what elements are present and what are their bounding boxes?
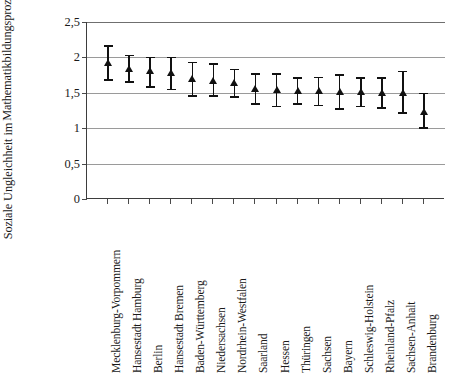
x-axis-category-label: Sachsen bbox=[322, 336, 334, 373]
error-bar-cap-upper bbox=[209, 63, 218, 65]
error-bar-cap-lower bbox=[419, 127, 428, 129]
error-bar-cap-lower bbox=[251, 103, 260, 105]
error-bar-cap-lower bbox=[377, 107, 386, 109]
data-point-marker bbox=[167, 69, 175, 76]
gridline bbox=[87, 164, 445, 165]
plot-area bbox=[86, 22, 444, 199]
data-point-marker bbox=[251, 85, 259, 92]
x-axis-tick-mark bbox=[423, 199, 424, 204]
error-bar-cap-lower bbox=[230, 96, 239, 98]
error-bar-cap-upper bbox=[251, 73, 260, 75]
error-bar-cap-lower bbox=[293, 103, 302, 105]
gridline bbox=[87, 22, 445, 23]
error-bar-cap-upper bbox=[146, 57, 155, 59]
x-axis-tick-mark bbox=[254, 199, 255, 204]
x-axis-category-label: Niedersachsen bbox=[216, 307, 228, 373]
y-axis-title-line-2: Mathematikbildungsprozess bbox=[0, 0, 15, 121]
x-axis-tick-mark bbox=[107, 199, 108, 204]
error-bar-cap-lower bbox=[167, 89, 176, 91]
x-axis-category-label: Brandenburg bbox=[427, 314, 439, 373]
x-axis-tick-mark bbox=[276, 199, 277, 204]
error-bar-cap-upper bbox=[272, 73, 281, 75]
error-bar-cap-upper bbox=[356, 77, 365, 79]
gridline bbox=[87, 93, 445, 94]
error-bar-cap-lower bbox=[188, 95, 197, 97]
error-bar-cap-upper bbox=[398, 71, 407, 73]
error-bar-cap-lower bbox=[104, 79, 113, 81]
x-axis-category-label: Sachsen-Anhalt bbox=[406, 302, 418, 373]
x-axis-tick-mark bbox=[191, 199, 192, 204]
data-point-marker bbox=[336, 88, 344, 95]
data-point-marker bbox=[146, 67, 154, 74]
error-bar-cap-upper bbox=[335, 74, 344, 76]
data-point-marker bbox=[357, 88, 365, 95]
x-axis-tick-mark bbox=[212, 199, 213, 204]
x-axis-category-label: Nordrhein-Westfalen bbox=[237, 278, 249, 373]
data-point-marker bbox=[315, 87, 323, 94]
error-bar-cap-upper bbox=[125, 55, 134, 57]
x-axis-category-label: Thüringen bbox=[301, 326, 313, 373]
error-bar-cap-upper bbox=[230, 69, 239, 71]
y-axis-tick-label: 1 bbox=[46, 122, 80, 134]
data-point-marker bbox=[188, 75, 196, 82]
gridline bbox=[87, 57, 445, 58]
x-axis-tick-mark bbox=[339, 199, 340, 204]
x-axis-tick-mark bbox=[381, 199, 382, 204]
gridline bbox=[87, 128, 445, 129]
x-axis-category-label: Rheinland-Pfalz bbox=[385, 300, 397, 373]
chart-figure: Soziale Ungleichheit im Mathematikbildun… bbox=[0, 0, 454, 378]
x-axis-category-label: Bayern bbox=[343, 340, 355, 373]
x-axis-tick-mark bbox=[318, 199, 319, 204]
x-axis-category-label: Hansestadt Bremen bbox=[174, 285, 186, 373]
data-point-marker bbox=[209, 77, 217, 84]
x-axis-tick-mark bbox=[149, 199, 150, 204]
y-axis-title: Soziale Ungleichheit im Mathematikbildun… bbox=[0, 12, 62, 212]
error-bar-cap-lower bbox=[314, 105, 323, 107]
y-axis-tick-mark bbox=[82, 199, 87, 200]
y-axis-tick-label: 2,5 bbox=[46, 16, 80, 28]
data-point-marker bbox=[230, 79, 238, 86]
x-axis-tick-mark bbox=[170, 199, 171, 204]
y-axis-tick-label: 2 bbox=[46, 51, 80, 63]
error-bar-cap-upper bbox=[314, 77, 323, 79]
x-axis-category-label: Hessen bbox=[280, 340, 292, 373]
x-axis-category-label: Schleswig-Holstein bbox=[364, 285, 376, 373]
data-point-marker bbox=[420, 108, 428, 115]
data-point-marker bbox=[399, 89, 407, 96]
error-bar-cap-lower bbox=[125, 81, 134, 83]
x-axis-tick-mark bbox=[402, 199, 403, 204]
data-point-marker bbox=[125, 65, 133, 72]
error-bar-cap-upper bbox=[293, 77, 302, 79]
y-axis-tick-label: 0 bbox=[46, 193, 80, 205]
error-bar-cap-lower bbox=[209, 95, 218, 97]
x-axis-category-label: Baden-Württemberg bbox=[195, 280, 207, 373]
x-axis-category-label: Saarland bbox=[258, 334, 270, 373]
error-bar-cap-lower bbox=[146, 86, 155, 88]
data-point-marker bbox=[104, 59, 112, 66]
error-bar-cap-lower bbox=[398, 112, 407, 114]
data-point-marker bbox=[378, 89, 386, 96]
x-axis-category-label: Mecklenburg-Vorpommern bbox=[111, 250, 123, 373]
error-bar-cap-upper bbox=[419, 93, 428, 95]
error-bar-cap-lower bbox=[335, 108, 344, 110]
x-axis-tick-mark bbox=[128, 199, 129, 204]
error-bar-cap-upper bbox=[188, 62, 197, 64]
x-axis-tick-mark bbox=[233, 199, 234, 204]
data-point-marker bbox=[273, 86, 281, 93]
x-axis-tick-mark bbox=[360, 199, 361, 204]
x-axis-category-label: Hansestadt Hamburg bbox=[132, 278, 144, 373]
y-axis-title-line-1: Soziale Ungleichheit im bbox=[0, 123, 16, 240]
error-bar-cap-lower bbox=[356, 106, 365, 108]
y-axis-tick-label: 0,5 bbox=[46, 157, 80, 169]
x-axis-tick-mark bbox=[297, 199, 298, 204]
error-bar-cap-upper bbox=[377, 77, 386, 79]
error-bar-cap-upper bbox=[167, 57, 176, 59]
error-bar-cap-lower bbox=[272, 106, 281, 108]
data-point-marker bbox=[294, 87, 302, 94]
y-axis-tick-label: 1,5 bbox=[46, 87, 80, 99]
x-axis-category-label: Berlin bbox=[153, 345, 165, 373]
error-bar-cap-upper bbox=[104, 45, 113, 47]
